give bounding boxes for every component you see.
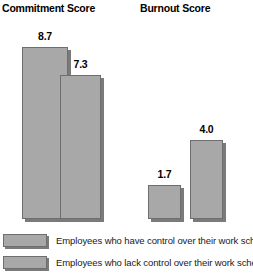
chart-legend: Employees who have control over their wo… xyxy=(0,230,253,274)
legend-item: Employees who have control over their wo… xyxy=(0,230,253,250)
legend-item-label: Employees who lack control over their wo… xyxy=(56,257,253,268)
bar-burnout-have-control xyxy=(148,185,181,219)
bar-value-label: 1.7 xyxy=(148,168,181,180)
bar-value-label: 4.0 xyxy=(190,123,223,135)
plot-area: 8.7 7.3 1.7 4.0 xyxy=(0,0,253,222)
legend-item-label: Employees who have control over their wo… xyxy=(56,235,253,246)
legend-swatch-icon xyxy=(3,256,47,269)
bar-value-label: 8.7 xyxy=(22,30,68,42)
bar-burnout-lack-control xyxy=(190,140,223,219)
bar-commitment-lack-control xyxy=(60,75,101,219)
bar-value-label: 7.3 xyxy=(60,58,101,70)
legend-item: Employees who lack control over their wo… xyxy=(0,252,253,272)
legend-swatch-icon xyxy=(3,234,47,247)
